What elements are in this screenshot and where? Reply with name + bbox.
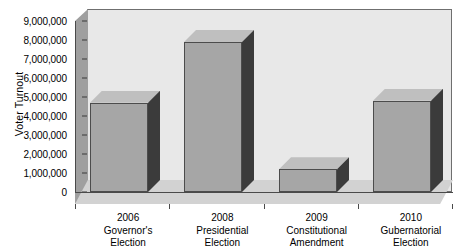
x-axis-tick-label-line: Governor's bbox=[78, 225, 178, 238]
x-axis-tick-label-line: Election bbox=[78, 237, 178, 250]
y-axis-tick-mark bbox=[82, 59, 87, 60]
x-axis-tick-label-line: 2009 bbox=[267, 212, 367, 225]
bar-top-face bbox=[373, 89, 443, 101]
bar-side-face bbox=[431, 89, 443, 192]
y-axis-line bbox=[75, 21, 76, 193]
y-axis-tick-mark bbox=[82, 154, 87, 155]
x-axis-tick-label: 2008PresidentialElection bbox=[172, 212, 272, 250]
y-axis-tick-label: 5,000,000 bbox=[23, 92, 67, 103]
x-axis-tick-label-line: 2006 bbox=[78, 212, 178, 225]
y-axis-tick-label: 8,000,000 bbox=[23, 35, 67, 46]
bar-front-face bbox=[373, 101, 431, 192]
x-axis-tick-mark bbox=[264, 204, 265, 209]
x-axis-line bbox=[75, 192, 453, 193]
x-axis-tick-mark bbox=[452, 204, 453, 209]
y-axis-tick-mark bbox=[82, 173, 87, 174]
x-axis-tick-label-line: Election bbox=[172, 237, 272, 250]
y-axis-tick-label: 2,000,000 bbox=[23, 149, 67, 160]
x-axis-tick-label-line: Constitutional bbox=[267, 225, 367, 238]
y-axis-tick-label: 3,000,000 bbox=[23, 130, 67, 141]
y-axis-tick-label: 1,000,000 bbox=[23, 168, 67, 179]
x-axis-tick-label-line: 2008 bbox=[172, 212, 272, 225]
y-axis-tick-mark bbox=[82, 21, 87, 22]
x-axis-tick-label: 2010GubernatorialElection bbox=[361, 212, 461, 250]
x-axis-tick-label-line: Amendment bbox=[267, 237, 367, 250]
y-axis-tick-mark bbox=[82, 97, 87, 98]
y-axis-tick-mark bbox=[82, 78, 87, 79]
x-axis-tick-label: 2006Governor'sElection bbox=[78, 212, 178, 250]
y-axis-tick-label: 9,000,000 bbox=[23, 16, 67, 27]
x-axis-tick-label: 2009ConstitutionalAmendment bbox=[267, 212, 367, 250]
y-axis-tick-mark bbox=[82, 135, 87, 136]
y-axis-tick-label: 6,000,000 bbox=[23, 73, 67, 84]
y-axis-tick-mark bbox=[82, 116, 87, 117]
x-axis-tick-label-line: Election bbox=[361, 237, 461, 250]
voter-turnout-bar-chart: Voter Turnout 01,000,0002,000,0003,000,0… bbox=[0, 0, 463, 252]
y-axis-tick-label: 4,000,000 bbox=[23, 111, 67, 122]
x-axis-tick-mark bbox=[358, 204, 359, 209]
x-axis-tick-label-line: Presidential bbox=[172, 225, 272, 238]
y-axis-tick-mark bbox=[82, 40, 87, 41]
x-axis-tick-mark bbox=[169, 204, 170, 209]
y-axis-tick-label: 7,000,000 bbox=[23, 54, 67, 65]
x-axis-tick-label-line: Gubernatorial bbox=[361, 225, 461, 238]
x-axis-tick-label-line: 2010 bbox=[361, 212, 461, 225]
x-axis-tick-labels: 2006Governor'sElection2008PresidentialEl… bbox=[0, 203, 463, 252]
y-axis-tick-label: 0 bbox=[62, 187, 67, 198]
x-axis-tick-mark bbox=[75, 204, 76, 209]
